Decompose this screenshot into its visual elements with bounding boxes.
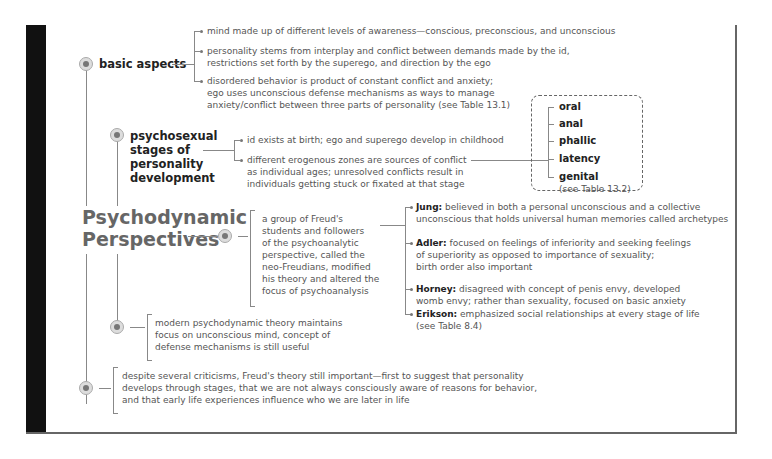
text-line: his theory and altered the — [262, 273, 379, 285]
stages-note: (see Table 13.2) — [559, 183, 631, 195]
node-legacy-icon — [79, 381, 93, 395]
text-line: different erogenous zones are sources of… — [247, 154, 467, 166]
text-line: despite several criticisms, Freud's theo… — [122, 370, 537, 382]
text-line: as individual ages; unresolved conflicts… — [247, 166, 467, 178]
tick — [548, 107, 554, 108]
text-line: develops through stages, that we are not… — [122, 382, 537, 394]
stage-oral: oral — [559, 101, 581, 113]
spine-line-upper — [86, 70, 87, 206]
text-line: believed in both a personal unconscious … — [445, 202, 700, 212]
theorists-connector — [380, 225, 405, 226]
tick — [548, 177, 554, 178]
theorists-bracket — [405, 207, 406, 314]
title-connector — [188, 236, 218, 237]
text-line: modern psychodynamic theory maintains — [155, 317, 342, 329]
text-line: and that early life experiences influenc… — [122, 394, 537, 406]
text-line: focus on unconscious mind, concept of — [155, 329, 342, 341]
text-line: individuals getting stuck or fixated at … — [247, 178, 467, 190]
theorist-name: Erikson: — [416, 309, 457, 319]
theorist-name: Jung: — [416, 202, 442, 212]
sub-spine-upper — [117, 141, 118, 206]
psychosexual-item-1: id exists at birth; ego and superego dev… — [247, 134, 504, 146]
bullet-dot — [410, 242, 413, 245]
psychosexual-bracket — [234, 140, 235, 160]
bullet-dot — [200, 80, 203, 83]
legacy-bracket — [113, 367, 118, 414]
stages-bracket — [548, 107, 549, 178]
text-line: (see Table 8.4) — [416, 320, 700, 332]
page-title: Psychodynamic Perspectives — [82, 206, 247, 250]
text-line: perspective, called the — [262, 249, 379, 261]
basic-aspect-item-1: mind made up of different levels of awar… — [207, 25, 615, 37]
label-line: personality — [130, 157, 217, 171]
text-line: focus of psychoanalysis — [262, 285, 379, 297]
text-line: disagreed with concept of penis envy, de… — [459, 284, 680, 294]
text-line: personality stems from interplay and con… — [207, 45, 570, 57]
bullet-dot — [410, 206, 413, 209]
text-line: unconscious that holds universal human m… — [416, 213, 728, 225]
bullet-dot — [200, 30, 203, 33]
theorist-name: Adler: — [416, 238, 447, 248]
bullet-dot — [410, 313, 413, 316]
psychosexual-item-2: different erogenous zones are sources of… — [247, 154, 467, 190]
theorist-adler: Adler: focused on feelings of inferiorit… — [416, 237, 691, 273]
stage-anal: anal — [559, 118, 583, 130]
node-modern-icon — [110, 320, 124, 334]
bullet-dot — [240, 159, 243, 162]
text-line: restrictions set forth by the superego, … — [207, 57, 570, 69]
text-line: focused on feelings of inferiority and s… — [450, 238, 691, 248]
basic-aspect-item-2: personality stems from interplay and con… — [207, 45, 570, 69]
text-line: neo-Freudians, modified — [262, 261, 379, 273]
node-basic-aspects-icon — [79, 57, 93, 71]
stage-latency: latency — [559, 153, 600, 165]
theorist-erikson: Erikson: emphasized social relationships… — [416, 308, 700, 332]
bullet-dot — [410, 288, 413, 291]
label-line: psychosexual — [130, 129, 217, 143]
tick — [548, 141, 554, 142]
text-line: students and followers — [262, 225, 379, 237]
frame-bottom-border — [26, 432, 737, 434]
modern-theory-text: modern psychodynamic theory maintains fo… — [155, 317, 342, 353]
basic-aspects-bracket — [194, 31, 195, 81]
psychosexual-connector — [203, 150, 234, 151]
text-line: emphasized social relationships at every… — [460, 309, 700, 319]
text-line: of the psychoanalytic — [262, 237, 379, 249]
text-line: id exists at birth; ego and superego dev… — [247, 134, 504, 146]
text-line: birth order also important — [416, 261, 691, 273]
neo-bracket — [250, 210, 255, 307]
title-line: Psychodynamic — [82, 206, 247, 228]
psychosexual-label: psychosexual stages of personality devel… — [130, 129, 217, 185]
text-line: a group of Freud's — [262, 213, 379, 225]
text-line: defense mechanisms is still useful — [155, 341, 342, 353]
theorist-horney: Horney: disagreed with concept of penis … — [416, 283, 686, 307]
neo-freudians-description: a group of Freud's students and follower… — [262, 213, 379, 297]
tick — [548, 124, 554, 125]
theorist-jung: Jung: believed in both a personal uncons… — [416, 201, 728, 225]
node-neo-freudians-icon — [218, 229, 232, 243]
stage-phallic: phallic — [559, 135, 596, 147]
text-line: anxiety/conflict between three parts of … — [207, 99, 510, 111]
label-line: development — [130, 171, 217, 185]
modern-connector — [130, 327, 145, 328]
sub-spine-lower — [117, 254, 118, 322]
neo-connector — [238, 236, 248, 237]
basic-aspects-connector — [172, 64, 194, 65]
text-line: ego uses unconscious defense mechanisms … — [207, 87, 510, 99]
frame-right-border — [735, 25, 737, 434]
theorist-name: Horney: — [416, 284, 456, 294]
frame-left-bar — [26, 25, 46, 433]
basic-aspect-item-3: disordered behavior is product of consta… — [207, 75, 510, 111]
legacy-connector — [99, 388, 111, 389]
text-line: of superiority as opposed to importance … — [416, 249, 691, 261]
node-psychosexual-icon — [110, 128, 124, 142]
bullet-dot — [200, 50, 203, 53]
text-line: disordered behavior is product of consta… — [207, 75, 510, 87]
legacy-text: despite several criticisms, Freud's theo… — [122, 370, 537, 406]
stage-genital: genital — [559, 171, 598, 183]
tick — [548, 159, 554, 160]
modern-bracket — [147, 314, 152, 361]
text-line: womb envy; rather than sexuality, focuse… — [416, 295, 686, 307]
bullet-dot — [240, 139, 243, 142]
text-line: mind made up of different levels of awar… — [207, 25, 615, 37]
